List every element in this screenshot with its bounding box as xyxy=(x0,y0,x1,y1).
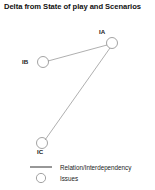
node-label-ic: IC xyxy=(37,148,43,155)
edges-group xyxy=(45,45,110,140)
edge-ia-ic xyxy=(45,48,110,140)
node-ib[interactable] xyxy=(38,57,49,68)
node-label-ib: IB xyxy=(22,58,28,65)
diagram-canvas xyxy=(0,0,155,190)
legend-label-line: Relation/Interdependency xyxy=(60,164,131,171)
node-label-ia: IA xyxy=(99,28,105,35)
node-ic[interactable] xyxy=(37,138,48,149)
legend-symbols-group xyxy=(30,167,52,183)
legend-label-circle: Issues xyxy=(60,175,78,182)
legend-circle-symbol xyxy=(36,173,45,182)
node-ia[interactable] xyxy=(107,38,118,49)
edge-ia-ib xyxy=(48,45,107,61)
